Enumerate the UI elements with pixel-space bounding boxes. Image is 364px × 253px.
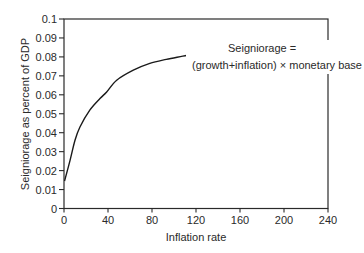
y-tick-label: 0.02 [36,165,57,177]
y-tick-label: 0.04 [36,127,57,139]
chart-svg: 00.010.020.030.040.050.060.070.080.090.1… [0,0,364,253]
y-axis-label: Seigniorage as percent of GDP [19,38,31,190]
y-tick-label: 0.05 [36,108,57,120]
x-tick-label: 0 [61,214,67,226]
x-axis-ticks: 04080120160200240 [61,209,337,226]
x-tick-label: 120 [187,214,205,226]
x-axis-label: Inflation rate [166,231,227,243]
y-tick-label: 0.06 [36,89,57,101]
x-tick-label: 80 [146,214,158,226]
annotation-line1: Seigniorage = [228,42,296,54]
y-axis-ticks: 00.010.020.030.040.050.060.070.080.090.1 [36,13,64,215]
y-tick-label: 0.01 [36,184,57,196]
y-tick-label: 0.09 [36,32,57,44]
x-tick-label: 200 [275,214,293,226]
seigniorage-chart: 00.010.020.030.040.050.060.070.080.090.1… [0,0,364,253]
y-tick-label: 0.08 [36,51,57,63]
x-tick-label: 40 [102,214,114,226]
y-tick-label: 0.07 [36,70,57,82]
x-tick-label: 160 [231,214,249,226]
annotation-line2: (growth+inflation) × monetary base [192,59,362,71]
x-tick-label: 240 [319,214,337,226]
y-tick-label: 0.03 [36,146,57,158]
y-tick-label: 0 [51,203,57,215]
y-tick-label: 0.1 [42,13,57,25]
